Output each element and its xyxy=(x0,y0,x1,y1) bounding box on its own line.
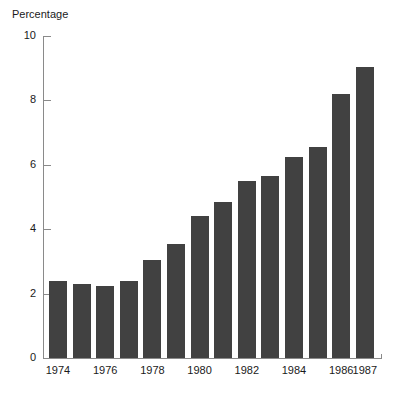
bar-chart: Percentage 0246810 197419761978198019821… xyxy=(0,0,402,402)
x-axis-tick-label: 1987 xyxy=(345,364,385,377)
bars-layer xyxy=(0,36,402,358)
y-axis-title: Percentage xyxy=(12,8,68,21)
bar xyxy=(143,260,161,358)
x-axis-tick-label: 1974 xyxy=(38,364,78,377)
bar xyxy=(332,94,350,358)
bar xyxy=(261,176,279,358)
bar xyxy=(120,281,138,358)
y-axis-tick xyxy=(44,358,51,359)
y-axis-top-tick xyxy=(0,0,9,1)
x-axis-tick-label: 1984 xyxy=(274,364,314,377)
bar xyxy=(309,147,327,358)
bar xyxy=(214,202,232,358)
bar xyxy=(167,244,185,358)
x-axis-line xyxy=(43,358,382,359)
x-axis-tick-label: 1982 xyxy=(227,364,267,377)
bar xyxy=(238,181,256,358)
bar xyxy=(356,67,374,358)
bar xyxy=(191,216,209,358)
bar xyxy=(96,286,114,358)
bar xyxy=(73,284,91,358)
bar xyxy=(49,281,67,358)
x-axis-tick-label: 1978 xyxy=(132,364,172,377)
x-axis-tick-label: 1980 xyxy=(180,364,220,377)
x-axis-labels: 19741976197819801982198419861987 xyxy=(0,364,402,380)
bar xyxy=(285,157,303,358)
x-axis-tick-label: 1976 xyxy=(85,364,125,377)
